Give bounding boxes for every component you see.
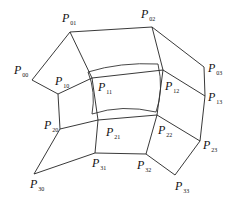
- label-subscript: 03: [216, 70, 222, 76]
- label-letter: P: [14, 63, 21, 77]
- net-edge-P01-P02: [70, 27, 152, 32]
- label-p12: P12: [165, 80, 179, 94]
- label-letter: P: [92, 156, 99, 170]
- net-edge-P20-P21: [60, 120, 98, 129]
- label-p23: P23: [203, 139, 217, 153]
- label-subscript: 01: [70, 20, 76, 26]
- label-p00: P00: [14, 64, 28, 78]
- label-p21: P21: [106, 126, 120, 140]
- net-edge-P22-P32: [146, 115, 157, 154]
- net-edge-P03-P13: [204, 67, 205, 96]
- label-subscript: 00: [22, 72, 28, 78]
- surface-edge-bottom: [92, 108, 156, 114]
- net-edge-P20-P30: [34, 129, 60, 174]
- label-p13: P13: [208, 91, 222, 105]
- label-letter: P: [203, 138, 210, 152]
- net-edge-P31-P32: [95, 153, 146, 154]
- label-letter: P: [98, 80, 105, 94]
- net-edge-P11-P12: [92, 70, 163, 78]
- label-subscript: 02: [149, 16, 155, 22]
- label-subscript: 33: [183, 188, 189, 194]
- label-letter: P: [141, 7, 148, 21]
- label-subscript: 10: [63, 83, 69, 89]
- label-p20: P20: [44, 119, 58, 133]
- label-p32: P32: [137, 159, 151, 173]
- control-net-diagram: [0, 0, 232, 199]
- label-p02: P02: [141, 8, 155, 22]
- label-p01: P01: [62, 12, 76, 26]
- net-edge-P00-P01: [32, 32, 70, 80]
- label-letter: P: [208, 90, 215, 104]
- label-p33: P33: [175, 180, 189, 194]
- label-subscript: 13: [216, 99, 222, 105]
- label-letter: P: [158, 123, 165, 137]
- label-letter: P: [106, 125, 113, 139]
- label-subscript: 21: [114, 134, 120, 140]
- label-subscript: 22: [166, 132, 172, 138]
- label-p11: P11: [98, 81, 112, 95]
- net-edge-P21-P22: [98, 115, 157, 120]
- label-p22: P22: [158, 124, 172, 138]
- surface-edge-right: [156, 64, 161, 112]
- net-edge-P02-P03: [152, 27, 204, 67]
- control-net-lines: [32, 27, 205, 175]
- label-subscript: 20: [52, 127, 58, 133]
- label-letter: P: [55, 74, 62, 88]
- label-subscript: 23: [211, 147, 217, 153]
- label-subscript: 30: [38, 186, 44, 192]
- label-subscript: 32: [145, 167, 151, 173]
- label-letter: P: [137, 158, 144, 172]
- label-p31: P31: [92, 157, 106, 171]
- label-subscript: 11: [106, 89, 112, 95]
- net-edge-P13-P23: [200, 96, 205, 141]
- label-letter: P: [62, 11, 69, 25]
- label-subscript: 31: [100, 165, 106, 171]
- label-letter: P: [165, 79, 172, 93]
- label-p30: P30: [30, 178, 44, 192]
- net-edge-P01-P11: [70, 32, 92, 78]
- label-letter: P: [30, 177, 37, 191]
- net-edge-P23-P33: [175, 141, 200, 175]
- label-letter: P: [175, 179, 182, 193]
- label-p10: P10: [55, 75, 69, 89]
- net-edge-P21-P31: [95, 120, 98, 153]
- label-letter: P: [208, 61, 215, 75]
- label-p03: P03: [208, 62, 222, 76]
- label-subscript: 12: [173, 88, 179, 94]
- net-edge-P30-P31: [34, 153, 95, 174]
- surface-edge-top: [88, 64, 158, 72]
- label-letter: P: [44, 118, 51, 132]
